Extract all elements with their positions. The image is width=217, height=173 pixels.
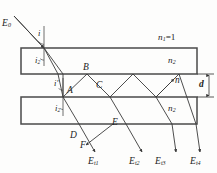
point-label-D: D	[70, 131, 77, 141]
transmitted-beam-label-2: Et2	[129, 157, 140, 167]
normal-arrow	[156, 79, 174, 97]
point-label-B: B	[83, 63, 89, 73]
angle-i-label: i	[38, 29, 40, 38]
transmitted-beam-label-3: Et3	[155, 157, 166, 167]
transmitted-beam-label-1: Et1	[88, 157, 99, 167]
figure-canvas	[0, 0, 217, 173]
optics-figure: E0 i i2 i' i2 n1=1 n2 n2 B A C D E F n d…	[0, 0, 217, 173]
angle-i2-bottom-label: i2	[55, 104, 60, 113]
point-label-F: F	[80, 141, 86, 151]
thickness-label: d	[199, 80, 204, 90]
normal-label: n	[175, 76, 180, 86]
angle-arcs	[38, 42, 63, 110]
transmitted-beam-label-4: Et4	[190, 157, 201, 167]
secondary-ray-EF	[86, 124, 113, 145]
angle-i2-top-label: i2	[35, 56, 40, 65]
gap-reflection-path	[63, 74, 179, 97]
point-label-C: C	[96, 81, 102, 91]
medium-n1-label: n1=1	[158, 33, 175, 43]
incident-beam-label: E0	[2, 19, 11, 29]
angle-i-prime-label: i'	[54, 79, 58, 88]
medium-n2-top-label: n2	[168, 56, 176, 66]
normal-lines	[44, 26, 63, 116]
point-label-A: A	[67, 86, 73, 96]
medium-n2-bottom-label: n2	[168, 104, 176, 114]
point-label-E: E	[112, 118, 118, 128]
